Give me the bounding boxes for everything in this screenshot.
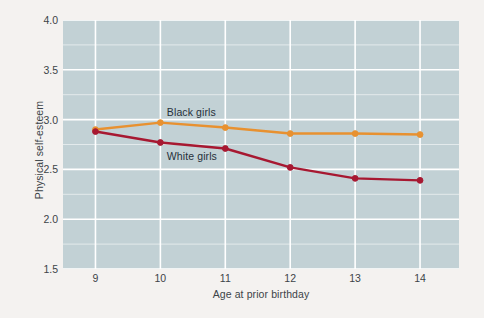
x-tick-label-10: 10 [140,272,180,284]
x-tick-label-12: 12 [270,272,310,284]
x-tick-label-9: 9 [75,272,115,284]
x-axis-title: Age at prior birthday [63,288,459,300]
x-axis-tick-labels: 91011121314 [0,0,484,318]
x-tick-label-14: 14 [400,272,440,284]
chart-figure: Physical self-esteem 1.52.02.53.03.54.0 … [0,0,484,318]
x-tick-label-11: 11 [205,272,245,284]
x-tick-label-13: 13 [335,272,375,284]
